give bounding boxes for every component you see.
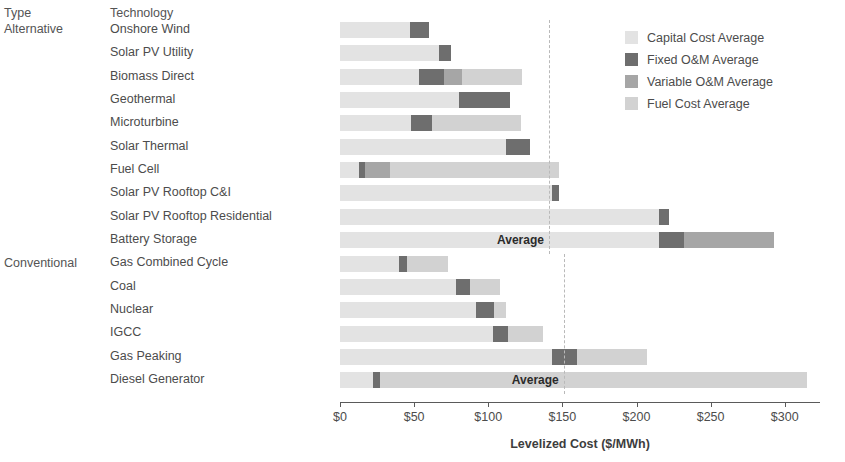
technology-label: IGCC [110, 325, 325, 348]
bar-segment-fixed [419, 69, 444, 85]
legend-swatch-icon [625, 97, 638, 110]
technology-label: Diesel Generator [110, 372, 325, 395]
bar-segment-capital [340, 372, 373, 388]
column-header-type: Type [4, 6, 31, 20]
axis-tick-label: $50 [404, 410, 425, 424]
technology-label: Solar PV Rooftop C&I [110, 185, 325, 208]
bar-segment-fixed [399, 256, 406, 272]
legend-item: Capital Cost Average [625, 28, 773, 47]
technology-label: Onshore Wind [110, 22, 325, 45]
bar-segment-fixed [552, 185, 559, 201]
bar-segment-fuel [462, 69, 523, 85]
bar-segment-fuel [577, 349, 647, 365]
bar-segment-fixed [659, 209, 669, 225]
bar-segment-capital [340, 139, 506, 155]
average-annotation: Average [512, 373, 559, 387]
axis-tick [785, 402, 786, 407]
axis-tick [488, 402, 489, 407]
bar-segment-variable [684, 232, 774, 248]
legend-label: Fuel Cost Average [647, 97, 750, 111]
bar-segment-capital [340, 302, 476, 318]
axis-tick-label: $200 [623, 410, 651, 424]
technology-label: Geothermal [110, 92, 325, 115]
technology-label: Solar Thermal [110, 139, 325, 162]
bar-segment-fuel [494, 302, 506, 318]
technology-label: Fuel Cell [110, 162, 325, 185]
axis-tick [562, 402, 563, 407]
axis-tick [340, 402, 341, 407]
bar-segment-capital [340, 185, 552, 201]
bar-segment-capital [340, 326, 493, 342]
bar-segment-capital [340, 162, 359, 178]
bar-segment-fuel [508, 326, 544, 342]
bar-segment-capital [340, 209, 659, 225]
bar-segment-capital [340, 279, 456, 295]
bar-segment-fixed [493, 326, 508, 342]
bar-segment-fixed [659, 232, 684, 248]
technology-label: Gas Peaking [110, 349, 325, 372]
column-header-technology: Technology [110, 6, 173, 20]
bar-segment-fixed [373, 372, 380, 388]
bar-segment-fuel [407, 256, 449, 272]
bar-segment-fixed [459, 92, 511, 108]
average-reference-line [549, 20, 550, 254]
technology-label: Gas Combined Cycle [110, 255, 325, 278]
bar-segment-fixed [506, 139, 530, 155]
bar-segment-capital [340, 69, 419, 85]
bar-segment-fixed [476, 302, 494, 318]
technology-label: Battery Storage [110, 232, 325, 255]
technology-label: Nuclear [110, 302, 325, 325]
technology-label: Solar PV Utility [110, 45, 325, 68]
bar-segment-fuel [432, 115, 521, 131]
bar-segment-fuel [380, 372, 807, 388]
technology-label-column: Onshore WindSolar PV UtilityBiomass Dire… [110, 22, 325, 396]
bar-segment-fuel [470, 279, 500, 295]
bar-segment-capital [340, 256, 399, 272]
axis-tick [637, 402, 638, 407]
legend-swatch-icon [625, 75, 638, 88]
bar-segment-fixed [410, 22, 429, 38]
legend-label: Variable O&M Average [647, 75, 773, 89]
axis-tick-label: $150 [548, 410, 576, 424]
bar-segment-capital [340, 92, 459, 108]
group-label-alternative: Alternative [4, 22, 63, 36]
x-axis: $0$50$100$150$200$250$300 [340, 402, 820, 403]
legend-label: Capital Cost Average [647, 31, 764, 45]
bar-segment-fixed [439, 45, 451, 61]
x-axis-title: Levelized Cost ($/MWh) [340, 437, 820, 451]
legend: Capital Cost AverageFixed O&M AverageVar… [625, 28, 773, 116]
bar-segment-fixed [411, 115, 432, 131]
axis-tick-label: $100 [474, 410, 502, 424]
technology-label: Microturbine [110, 115, 325, 138]
bar-segment-variable [365, 162, 390, 178]
axis-tick-label: $300 [771, 410, 799, 424]
technology-label: Coal [110, 279, 325, 302]
axis-tick [711, 402, 712, 407]
bar-segment-variable [444, 69, 462, 85]
technology-label: Biomass Direct [110, 69, 325, 92]
average-reference-line [564, 254, 565, 394]
legend-item: Fixed O&M Average [625, 50, 773, 69]
legend-swatch-icon [625, 31, 638, 44]
legend-label: Fixed O&M Average [647, 53, 759, 67]
bar-segment-fuel [390, 162, 559, 178]
technology-label: Solar PV Rooftop Residential [110, 209, 325, 232]
axis-tick-label: $250 [697, 410, 725, 424]
legend-item: Variable O&M Average [625, 72, 773, 91]
bar-segment-capital [340, 45, 439, 61]
bar-segment-capital [340, 349, 552, 365]
chart-container: Type Technology Alternative Conventional… [0, 0, 845, 462]
bar-segment-capital [340, 22, 410, 38]
legend-item: Fuel Cost Average [625, 94, 773, 113]
axis-tick [414, 402, 415, 407]
axis-tick-label: $0 [333, 410, 347, 424]
bar-segment-capital [340, 115, 411, 131]
bar-segment-fixed [456, 279, 471, 295]
average-annotation: Average [497, 233, 544, 247]
legend-swatch-icon [625, 53, 638, 66]
group-label-conventional: Conventional [4, 256, 77, 270]
